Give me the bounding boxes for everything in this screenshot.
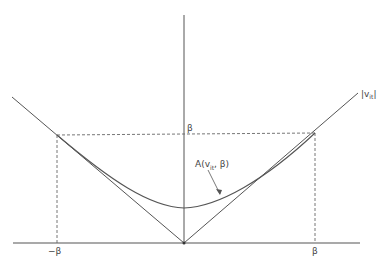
approx-label: A(vit, β) (195, 159, 229, 171)
origin-point (183, 242, 186, 245)
neg-beta-x-label: −β (48, 246, 62, 256)
beta-y-label: β (187, 123, 193, 133)
beta-horizontal-dashed (57, 133, 315, 135)
diagram-canvas: |vit| A(vit, β) β −β β (0, 0, 391, 268)
beta-x-label: β (312, 246, 318, 256)
arrow-head-icon (216, 189, 222, 195)
abs-value-label: |vit| (361, 89, 376, 100)
abs-value-line (12, 93, 358, 243)
approx-curve (57, 133, 315, 208)
